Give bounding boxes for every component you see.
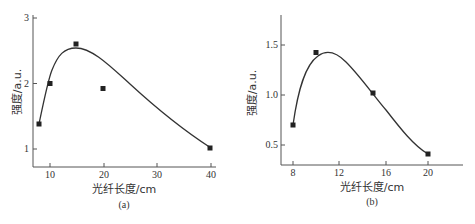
figure: 3 2 1 10 20 30 40 强度/a.u. 光纤长度/cm (a) 1.… [0,0,475,224]
y-axis-title-a: 强度/a.u. [10,69,24,115]
x-tick-a-20: 20 [99,169,109,180]
x-tick-a-30: 30 [152,169,162,180]
x-tick-b-16: 16 [381,167,391,178]
data-point [48,81,53,86]
data-point [208,146,213,151]
x-tick-b-12: 12 [334,167,344,178]
x-tick-b-20: 20 [423,167,433,178]
data-point [101,86,106,91]
data-point [74,42,79,47]
fit-curve-a [39,48,211,148]
fit-curve-b [293,53,428,154]
y-tick-b-0.5: 0.5 [266,139,279,150]
y-tick-a-2: 2 [24,78,29,89]
panel-label-b: (b) [366,196,378,208]
data-point [371,91,376,96]
y-tick-b-1.0: 1.0 [266,89,279,100]
data-point [426,152,431,157]
data-point [291,123,296,128]
x-tick-b-8: 8 [291,167,296,178]
chart-a: 3 2 1 10 20 30 40 强度/a.u. 光纤长度/cm (a) [10,12,216,211]
x-axis-title-a: 光纤长度/cm [92,182,156,196]
panel-label-a: (a) [118,199,129,211]
data-point [314,50,319,55]
x-axis-title-b: 光纤长度/cm [340,180,404,194]
y-tick-b-1.5: 1.5 [266,39,279,50]
y-tick-a-3: 3 [24,12,29,23]
x-tick-a-40: 40 [206,169,216,180]
x-tick-a-10: 10 [45,169,55,180]
y-tick-a-1: 1 [24,143,29,154]
data-point [37,122,42,127]
y-axis-title-b: 强度/a.u. [245,70,259,116]
chart-b: 1.5 1.0 0.5 8 12 16 20 强度/a.u. 光纤长度/cm (… [245,15,463,208]
